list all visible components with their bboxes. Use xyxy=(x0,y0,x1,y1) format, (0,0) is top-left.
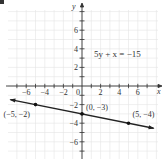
point-label: (0, −3) xyxy=(86,103,108,112)
point-label: (5, −4) xyxy=(133,110,155,119)
tick-labels: −6−4−20246642−2−4−6 xyxy=(22,26,140,147)
point-label: (−5, −2) xyxy=(4,110,31,119)
x-tick-label: −4 xyxy=(41,88,50,97)
y-tick-label: 6 xyxy=(74,26,78,35)
x-tick-label: 4 xyxy=(117,88,121,97)
y-tick-label: 2 xyxy=(74,63,78,72)
data-point xyxy=(127,121,131,125)
data-point xyxy=(34,103,38,107)
axes xyxy=(6,3,162,159)
equation-label: 5y + x = −15 xyxy=(94,49,141,59)
x-tick-label: 6 xyxy=(136,88,140,97)
x-tick-label: 0 xyxy=(76,88,80,97)
y-tick-label: −6 xyxy=(69,138,78,147)
grid-lines xyxy=(8,10,158,159)
y-tick-label: 4 xyxy=(74,45,78,54)
y-axis-label: y xyxy=(71,2,76,11)
y-tick-label: −2 xyxy=(69,101,78,110)
x-tick-label: 2 xyxy=(99,88,103,97)
x-tick-label: −2 xyxy=(59,88,68,97)
y-tick-label: −4 xyxy=(69,119,78,128)
x-tick-label: −6 xyxy=(22,88,31,97)
data-point xyxy=(80,112,84,116)
x-axis-label: x xyxy=(156,87,161,96)
coordinate-plane: −6−4−20246642−2−4−6 (−5, −2)(0, −3)(5, −… xyxy=(0,0,167,159)
